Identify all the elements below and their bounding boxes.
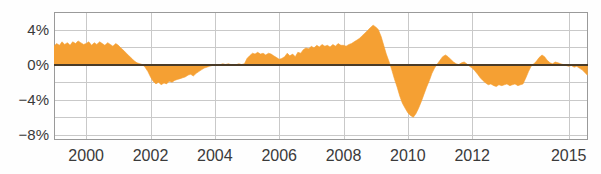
x-tick-label: 2000 — [68, 148, 104, 164]
plot-area — [54, 12, 588, 140]
area-series — [54, 25, 587, 117]
x-tick-label: 2008 — [326, 148, 362, 164]
chart-root: 4%0%−4%−8% 20002002200420062008201020122… — [0, 0, 601, 174]
y-axis-labels: 4%0%−4%−8% — [0, 0, 49, 174]
x-tick-label: 2015 — [551, 148, 587, 164]
series-layer — [54, 12, 588, 140]
y-tick-label: 0% — [27, 57, 49, 72]
x-tick-label: 2002 — [133, 148, 169, 164]
x-tick-label: 2010 — [390, 148, 426, 164]
x-tick-label: 2012 — [454, 148, 490, 164]
y-tick-label: −4% — [19, 92, 49, 107]
x-tick-label: 2006 — [261, 148, 297, 164]
y-tick-label: 4% — [27, 22, 49, 37]
x-tick-label: 2004 — [197, 148, 233, 164]
y-tick-label: −8% — [19, 127, 49, 142]
